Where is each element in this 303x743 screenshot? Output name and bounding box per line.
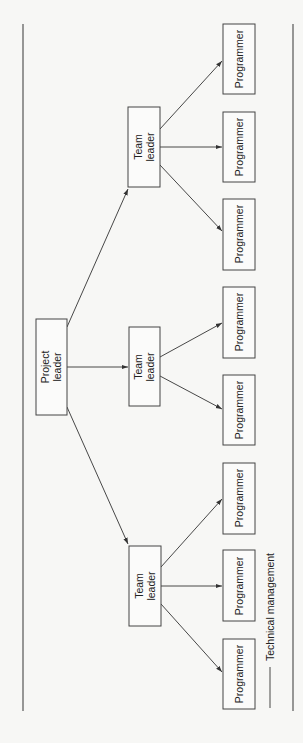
node-programmer-2: Programmer [223, 112, 255, 182]
node-project-leader: Project leader [36, 319, 67, 415]
team-leader-2-label-line1: Team [132, 354, 144, 380]
edge-team2-to-prog5 [160, 376, 222, 409]
edge-team3-to-prog8 [161, 604, 222, 672]
node-programmer-1: Programmer [223, 24, 255, 94]
team-leader-1-label-line2: leader [144, 132, 156, 162]
edge-team1-to-prog1 [160, 61, 222, 129]
edge-team1-to-prog3 [160, 165, 222, 231]
programmer-5-label: Programmer [233, 380, 245, 439]
programmer-3-label: Programmer [233, 204, 245, 263]
legend: Technical management [264, 553, 276, 708]
node-programmer-5: Programmer [223, 375, 255, 445]
programmer-7-label: Programmer [233, 556, 245, 615]
legend-label: Technical management [264, 553, 276, 661]
node-team-leader-2: Team leader [129, 327, 160, 406]
node-team-leader-3: Team leader [129, 546, 161, 626]
project-leader-label-line2: leader [51, 352, 63, 382]
edge-team3-to-prog6 [161, 499, 222, 567]
node-programmer-8: Programmer [223, 639, 255, 709]
edge-project-to-team1 [67, 189, 128, 327]
node-programmer-4: Programmer [223, 287, 255, 358]
programmer-1-label: Programmer [233, 29, 245, 88]
node-programmer-6: Programmer [223, 463, 255, 534]
node-programmer-3: Programmer [223, 199, 255, 270]
team-leader-1-label-line1: Team [132, 134, 144, 160]
programmer-8-label: Programmer [233, 644, 245, 703]
programmer-6-label: Programmer [233, 468, 245, 527]
programmer-4-label: Programmer [233, 292, 245, 351]
programmer-2-label: Programmer [233, 117, 245, 176]
team-leader-2-label-line2: leader [144, 352, 156, 382]
edge-team2-to-prog4 [160, 323, 222, 357]
team-leader-3-label-line2: leader [145, 571, 157, 601]
org-chart-diagram: Project leader Team leader Team leader T… [0, 0, 303, 743]
project-leader-label-line1: Project [39, 351, 51, 384]
edge-project-to-team3 [67, 407, 128, 544]
node-team-leader-1: Team leader [128, 107, 160, 187]
node-programmer-7: Programmer [223, 550, 255, 621]
team-leader-3-label-line1: Team [133, 573, 145, 599]
